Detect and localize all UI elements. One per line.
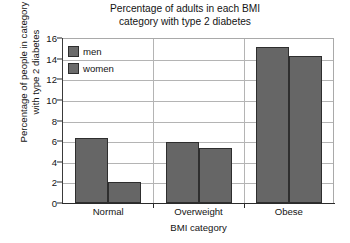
x-category-label-obese: Obese — [275, 206, 303, 217]
y-tick-label: 12 — [7, 74, 57, 85]
x-category-label-normal: Normal — [93, 206, 124, 217]
x-tick-mark — [153, 203, 154, 208]
legend-swatch-men — [68, 46, 79, 57]
y-tick-label: 10 — [7, 94, 57, 105]
x-tick-mark — [244, 203, 245, 208]
legend-label-men: men — [83, 46, 102, 57]
y-tick-label: 8 — [7, 115, 57, 126]
y-tick-label: 0 — [7, 198, 57, 209]
bar-men-normal — [75, 138, 108, 203]
bar-men-overweight — [166, 142, 199, 203]
bar-women-normal — [108, 182, 141, 203]
bar-women-overweight — [199, 148, 232, 203]
category-separator — [153, 39, 154, 203]
y-tick-label: 4 — [7, 156, 57, 167]
category-separator — [244, 39, 245, 203]
y-tick-label: 16 — [7, 33, 57, 44]
bar-women-obese — [289, 56, 322, 203]
y-tick-label: 6 — [7, 136, 57, 147]
chart-legend: men women — [68, 42, 114, 78]
x-axis-label: BMI category — [63, 222, 334, 233]
legend-item-women: women — [68, 60, 114, 77]
y-tick-label: 2 — [7, 177, 57, 188]
y-tick-label: 14 — [7, 53, 57, 64]
legend-label-women: women — [83, 63, 114, 74]
bar-men-obese — [256, 47, 289, 203]
bar-chart: Percentage of adults in each BMI categor… — [0, 0, 350, 243]
legend-item-men: men — [68, 43, 114, 60]
legend-swatch-women — [68, 63, 79, 74]
x-axis-line — [62, 203, 335, 204]
x-category-label-overweight: Overweight — [174, 206, 223, 217]
chart-title: Percentage of adults in each BMI categor… — [40, 3, 330, 28]
